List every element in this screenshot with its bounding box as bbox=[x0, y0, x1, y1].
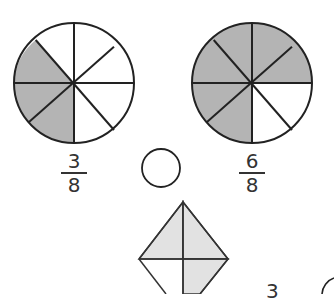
left-numerator: 3 bbox=[59, 151, 89, 171]
diamond-figure bbox=[139, 202, 228, 294]
right-denominator: 8 bbox=[237, 175, 267, 195]
right-numerator: 6 bbox=[237, 151, 267, 171]
partial-circle-edge bbox=[322, 278, 334, 294]
right-fraction-circle bbox=[192, 23, 312, 143]
left-fraction-circle bbox=[14, 23, 134, 143]
left-denominator: 8 bbox=[59, 175, 89, 195]
partial-numerator: 3 bbox=[266, 279, 279, 302]
right-fraction-label: 6 8 bbox=[237, 151, 267, 195]
comparison-answer-circle[interactable] bbox=[142, 149, 180, 187]
left-fraction-label: 3 8 bbox=[59, 151, 89, 195]
